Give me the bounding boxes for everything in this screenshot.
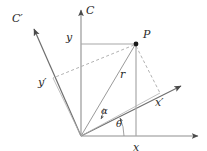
- axis-y-prime-label: y′: [38, 77, 46, 88]
- angle-alpha-label: α: [101, 106, 108, 116]
- axis-x-prime-label: x′: [155, 97, 163, 108]
- point-p-dot: [134, 42, 139, 47]
- axis-c-prime-label: C′: [12, 13, 23, 24]
- figure-canvas: [0, 0, 207, 151]
- axis-y-label: y: [66, 32, 72, 43]
- radius-r-label: r: [120, 69, 125, 80]
- axis-c-label: C: [86, 5, 94, 16]
- coordinate-system-figure: C C′ x x′ y y′ P r α θ: [0, 0, 207, 151]
- angle-theta-label: θ: [116, 119, 122, 129]
- y-prime-foot-line: [53, 78, 81, 136]
- point-p-label: P: [143, 29, 150, 40]
- x-prime-foot-line: [81, 93, 160, 136]
- axis-x-label: x: [133, 142, 139, 151]
- x-prime-projection-line: [136, 46, 160, 93]
